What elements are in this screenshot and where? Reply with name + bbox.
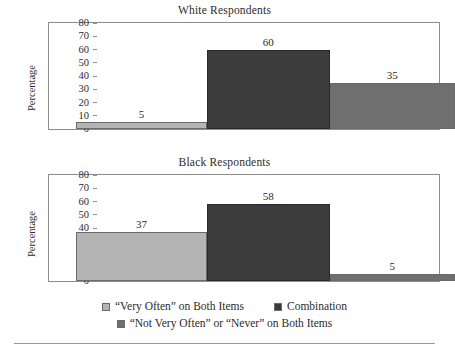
panel-title-black: Black Respondents <box>0 156 449 168</box>
bar-black-2 <box>207 204 330 281</box>
y-axis-label-black: Percentage <box>26 211 37 257</box>
legend-item-label: “Very Often” on Both Items <box>115 300 244 312</box>
legend-swatch-icon <box>102 303 110 311</box>
chart-legend: “Very Often” on Both ItemsCombination “N… <box>0 297 449 331</box>
legend-swatch-icon <box>274 303 282 311</box>
bar-value-label-black-1: 37 <box>76 218 207 231</box>
bar-value-label-white-1: 5 <box>76 108 207 121</box>
bottom-divider <box>14 343 435 344</box>
panel-title-white: White Respondents <box>0 4 449 16</box>
panel-white-respondents: White Respondents Percentage 80706050403… <box>0 0 449 150</box>
legend-item-label: “Not Very Often” or “Never” on Both Item… <box>130 317 333 329</box>
bar-white-2 <box>207 50 330 130</box>
legend-item-2-1[interactable]: “Not Very Often” or “Never” on Both Item… <box>117 316 333 331</box>
legend-item-label: Combination <box>287 300 347 312</box>
legend-swatch-icon <box>117 320 125 328</box>
bar-value-label-white-2: 60 <box>207 36 330 49</box>
bar-value-label-white-3: 35 <box>330 69 455 82</box>
legend-item-1-1[interactable]: “Very Often” on Both Items <box>102 299 244 314</box>
bar-white-3 <box>330 83 455 129</box>
plot-area-white: 80706050403020100 56035 <box>48 22 440 130</box>
bar-black-3 <box>330 274 455 281</box>
bar-value-label-black-3: 5 <box>330 260 455 273</box>
legend-item-1-2[interactable]: Combination <box>274 299 347 314</box>
bar-value-label-black-2: 58 <box>207 190 330 203</box>
legend-row-1: “Very Often” on Both ItemsCombination <box>0 297 449 314</box>
bar-black-1 <box>76 232 207 281</box>
bar-white-1 <box>76 122 207 129</box>
y-axis-label-white: Percentage <box>26 65 37 111</box>
legend-row-2: “Not Very Often” or “Never” on Both Item… <box>0 314 449 331</box>
bars-black: 37585 <box>49 175 439 281</box>
plot-area-black: 80706050403020100 37585 <box>48 174 440 282</box>
bars-white: 56035 <box>49 23 439 129</box>
panel-black-respondents: Black Respondents Percentage 80706050403… <box>0 152 449 295</box>
